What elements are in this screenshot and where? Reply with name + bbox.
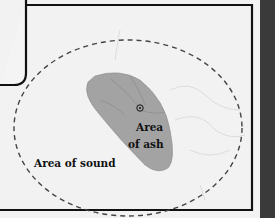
sound-area-label: Area of sound	[34, 157, 116, 169]
ash-area-label-line2: of ash	[128, 138, 164, 150]
ash-area-label-line1: Area	[136, 121, 163, 133]
volcano-map: Area of ash Area of sound	[0, 0, 275, 218]
map-canvas	[0, 0, 275, 218]
volcano-marker-icon	[137, 105, 143, 111]
right-edge-strip	[260, 0, 275, 218]
